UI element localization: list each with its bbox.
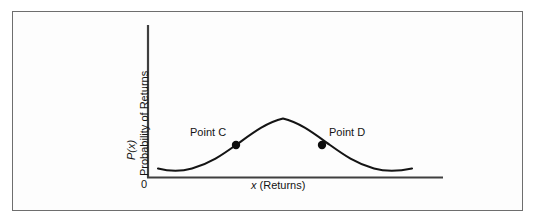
y-axis-label-probability: Probability of Returns <box>138 71 150 176</box>
figure-root: 0 x (Returns) P(x) Probability of Return… <box>0 0 534 221</box>
origin-tick-label: 0 <box>141 178 147 190</box>
x-axis-label-text: (Returns) <box>257 179 306 191</box>
point-c-marker[interactable] <box>232 141 240 149</box>
point-d-marker[interactable] <box>318 141 326 149</box>
y-axis-label-px: P(x) <box>125 140 137 160</box>
x-axis-label: x (Returns) <box>251 179 305 191</box>
point-d-label: Point D <box>329 126 365 138</box>
point-c-label: Point C <box>190 126 226 138</box>
